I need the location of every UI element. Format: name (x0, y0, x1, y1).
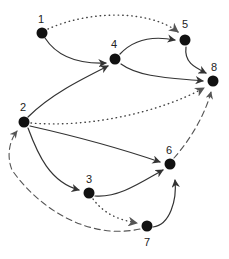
edge-4-8 (121, 64, 203, 81)
node-1: 1 (37, 13, 48, 39)
node-5: 5 (180, 18, 191, 46)
node-3: 3 (84, 173, 95, 199)
edge-7-2 (9, 131, 140, 231)
edge-1-5 (48, 15, 178, 32)
node-4: 4 (110, 38, 121, 65)
node-label: 2 (20, 101, 26, 113)
node-label: 8 (211, 61, 217, 73)
edge-2-6 (30, 126, 160, 162)
node-label: 6 (166, 144, 172, 156)
node-label: 4 (111, 38, 117, 50)
graph-canvas: 1 2 3 4 5 6 7 8 (0, 0, 229, 259)
node-label: 3 (86, 173, 92, 185)
edge-7-6 (153, 180, 175, 227)
node-label: 5 (182, 18, 188, 30)
edge-3-7 (93, 199, 137, 223)
edge-1-4 (45, 38, 106, 63)
edge-5-8 (186, 47, 206, 73)
edge-2-4 (28, 66, 108, 117)
edge-4-5 (120, 38, 175, 54)
node-8: 8 (208, 61, 219, 87)
node-6: 6 (165, 144, 176, 170)
edge-6-8 (174, 92, 211, 158)
edge-3-6 (95, 170, 163, 196)
edge-2-3 (28, 128, 79, 190)
node-label: 1 (38, 13, 44, 25)
node-label: 7 (144, 236, 150, 248)
node-2: 2 (19, 101, 30, 128)
node-7: 7 (142, 221, 153, 249)
